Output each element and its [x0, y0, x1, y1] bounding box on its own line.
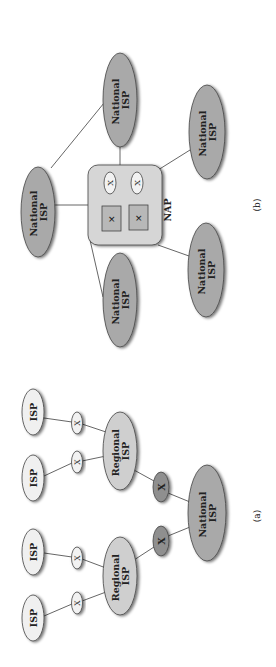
panel-a-caption: (a): [252, 510, 262, 522]
edge: [44, 553, 72, 557]
nap-box: [88, 165, 162, 245]
isp-hierarchy-diagram: National ISP National ISP National ISP N…: [0, 0, 276, 667]
switch-symbol: X: [73, 555, 82, 561]
node-label: ISP: [28, 543, 39, 561]
switch-symbol: X: [73, 600, 82, 606]
edge-nap-n4: [158, 150, 190, 170]
switch-symbol: X: [156, 537, 167, 545]
edge: [168, 527, 190, 536]
panel-a: ISP ISP ISP ISP X X X X Regional ISP: [22, 389, 262, 641]
edge: [44, 463, 72, 476]
edge: [82, 456, 106, 461]
switch-symbol: X: [133, 180, 142, 186]
edge: [44, 604, 72, 616]
switch-symbol: X: [73, 459, 82, 465]
node-label: ISP: [28, 469, 39, 487]
edge: [82, 592, 106, 601]
switch-symbol: X: [156, 483, 167, 491]
edge-nap-n3: [90, 240, 103, 297]
edge-n1-n2: [51, 103, 104, 168]
edge: [134, 470, 154, 481]
node-label: ISP: [28, 403, 39, 421]
edge: [82, 424, 106, 432]
panel-b-caption: (b): [252, 199, 262, 212]
edge: [134, 547, 154, 560]
switch-symbol: X: [106, 180, 115, 186]
switch-symbol: X: [73, 420, 82, 426]
node-label: ISP: [28, 609, 39, 627]
router-symbol: ✕: [107, 215, 117, 223]
edge-nap-n5: [158, 245, 189, 256]
router-symbol: ✕: [134, 214, 144, 222]
edge: [44, 418, 72, 422]
nap-label: NAP: [162, 198, 173, 221]
edge: [168, 493, 190, 502]
panel-b: National ISP National ISP National ISP N…: [21, 53, 262, 347]
edge: [82, 559, 106, 568]
